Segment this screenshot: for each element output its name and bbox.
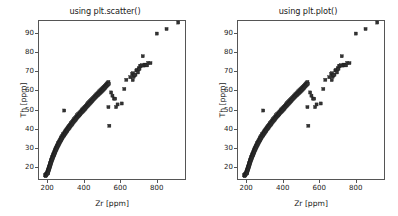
data-point (116, 103, 119, 106)
data-point (108, 124, 111, 127)
data-point (348, 62, 351, 65)
x-tick-mark (283, 180, 284, 183)
data-point (306, 82, 309, 85)
data-point (110, 91, 113, 94)
x-tick-mark (246, 180, 247, 183)
x-axis-label-left: Zr [ppm] (38, 199, 186, 208)
panel-scatter: using plt.scatter() Th [ppm] Zr [ppm] 20… (0, 0, 199, 216)
y-tick-label: 20 (224, 163, 233, 171)
data-point (107, 82, 110, 85)
y-tick-mark (234, 110, 237, 111)
scatter-markers-right (238, 21, 386, 181)
y-tick-mark (35, 33, 38, 34)
data-point (310, 94, 313, 97)
y-tick-label: 80 (224, 48, 233, 56)
y-tick-mark (35, 90, 38, 91)
data-point (107, 106, 110, 109)
y-tick-label: 30 (224, 144, 233, 152)
data-point (129, 76, 132, 79)
data-point (262, 109, 265, 112)
panel-plot: using plt.plot() Th [ppm] Zr [ppm] 20040… (199, 0, 398, 216)
data-point (63, 109, 66, 112)
data-point (309, 91, 312, 94)
x-tick-mark (319, 180, 320, 183)
y-tick-label: 50 (25, 106, 34, 114)
x-tick-label: 600 (313, 184, 326, 192)
y-tick-label: 70 (224, 67, 233, 75)
y-tick-mark (35, 167, 38, 168)
y-tick-label: 60 (25, 86, 34, 94)
matplotlib-figure: using plt.scatter() Th [ppm] Zr [ppm] 20… (0, 0, 398, 216)
data-point (313, 97, 316, 100)
x-tick-label: 400 (77, 184, 90, 192)
x-tick-mark (84, 180, 85, 183)
data-point (340, 55, 343, 58)
data-point (155, 32, 158, 35)
data-point (123, 87, 126, 90)
data-point (149, 62, 152, 65)
x-tick-label: 400 (276, 184, 289, 192)
data-point (307, 124, 310, 127)
y-tick-mark (234, 129, 237, 130)
data-point (120, 102, 123, 105)
data-point (376, 21, 379, 24)
x-tick-label: 600 (114, 184, 127, 192)
y-tick-label: 30 (25, 144, 34, 152)
y-tick-mark (35, 148, 38, 149)
data-point (114, 97, 117, 100)
y-tick-label: 70 (25, 67, 34, 75)
data-point (324, 78, 327, 81)
data-point (315, 103, 318, 106)
data-point (328, 76, 331, 79)
data-point (177, 21, 180, 24)
panel-title-scatter: using plt.scatter() (10, 6, 200, 16)
data-point (131, 79, 134, 82)
y-tick-mark (234, 33, 237, 34)
y-tick-label: 50 (224, 106, 233, 114)
data-point (165, 27, 168, 30)
y-tick-mark (234, 167, 237, 168)
panel-title-plot: using plt.plot() (213, 6, 398, 16)
y-tick-label: 90 (224, 29, 233, 37)
data-point (330, 79, 333, 82)
data-point (354, 32, 357, 35)
y-tick-label: 20 (25, 163, 34, 171)
axes-area-plot (237, 20, 385, 180)
y-tick-mark (35, 52, 38, 53)
y-tick-label: 60 (224, 86, 233, 94)
y-tick-label: 90 (25, 29, 34, 37)
data-point (364, 27, 367, 30)
x-tick-mark (356, 180, 357, 183)
data-point (125, 78, 128, 81)
scatter-markers-left (39, 21, 187, 181)
x-tick-label: 200 (40, 184, 53, 192)
data-point (136, 71, 139, 74)
y-tick-mark (234, 90, 237, 91)
x-tick-label: 800 (349, 184, 362, 192)
x-tick-mark (120, 180, 121, 183)
axes-area-scatter (38, 20, 186, 180)
y-tick-mark (234, 52, 237, 53)
data-point (319, 102, 322, 105)
y-tick-mark (35, 129, 38, 130)
y-tick-label: 40 (224, 125, 233, 133)
x-tick-label: 800 (150, 184, 163, 192)
y-tick-label: 80 (25, 48, 34, 56)
y-tick-mark (35, 110, 38, 111)
x-tick-mark (157, 180, 158, 183)
x-tick-label: 200 (239, 184, 252, 192)
y-tick-mark (35, 71, 38, 72)
data-point (335, 71, 338, 74)
data-point (306, 106, 309, 109)
data-point (322, 87, 325, 90)
y-tick-mark (234, 148, 237, 149)
data-point (141, 55, 144, 58)
x-tick-mark (47, 180, 48, 183)
y-tick-label: 40 (25, 125, 34, 133)
x-axis-label-right: Zr [ppm] (237, 199, 385, 208)
y-tick-mark (234, 71, 237, 72)
data-point (111, 94, 114, 97)
